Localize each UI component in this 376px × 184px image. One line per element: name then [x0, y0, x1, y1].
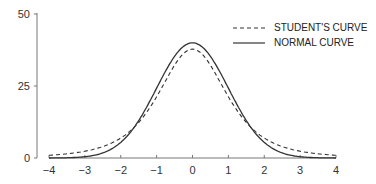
- y-tick-label: 25: [18, 80, 30, 92]
- x-tick-label: −1: [150, 164, 163, 176]
- x-tick-label: 3: [297, 164, 303, 176]
- x-tick-label: 1: [225, 164, 231, 176]
- y-axis: 02550: [18, 8, 37, 164]
- y-tick-label: 50: [18, 8, 30, 20]
- x-tick-label: 2: [261, 164, 267, 176]
- x-tick-label: 0: [189, 164, 195, 176]
- y-tick-label: 0: [24, 152, 30, 164]
- legend: STUDENT'S CURVE NORMAL CURVE: [233, 22, 368, 48]
- legend-student-label: STUDENT'S CURVE: [274, 22, 368, 33]
- x-tick-label: −3: [79, 164, 92, 176]
- student-curve-line: [49, 49, 336, 155]
- x-axis: −4−3−2−101234: [43, 155, 339, 176]
- x-tick-label: −4: [43, 164, 56, 176]
- x-tick-label: −2: [114, 164, 127, 176]
- normal-curve-line: [49, 43, 336, 158]
- chart: 02550 −4−3−2−101234 STUDENT'S CURVE NORM…: [0, 0, 376, 184]
- x-tick-label: 4: [333, 164, 339, 176]
- legend-normal-label: NORMAL CURVE: [274, 37, 354, 48]
